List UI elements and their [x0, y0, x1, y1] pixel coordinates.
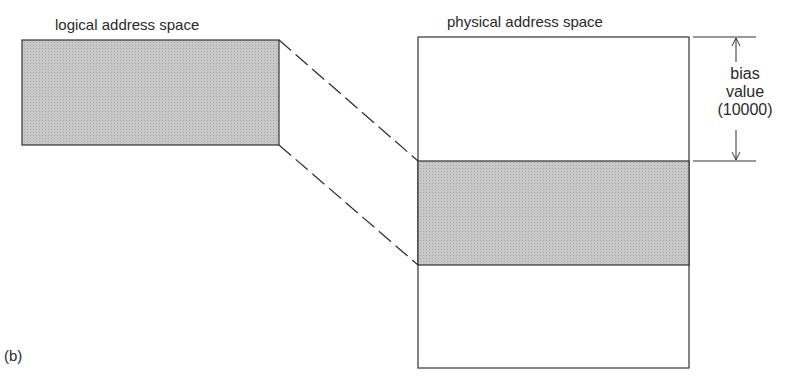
logical-segment: [22, 40, 279, 145]
figure-label: (b): [4, 347, 22, 364]
logical-address-label: logical address space: [55, 16, 199, 33]
bias-line-3: (10000): [712, 101, 778, 119]
bias-line-2: value: [712, 83, 778, 101]
bias-value-label: bias value (10000): [712, 65, 778, 119]
bias-line-1: bias: [712, 65, 778, 83]
diagram-canvas: [0, 0, 792, 382]
mapping-line-top: [279, 40, 418, 161]
physical-segment: [418, 161, 689, 265]
mapping-line-bottom: [279, 145, 418, 265]
physical-address-label: physical address space: [447, 13, 603, 30]
